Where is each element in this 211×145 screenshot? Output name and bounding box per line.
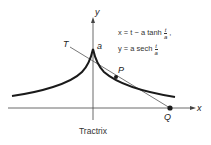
tractrix-diagram — [0, 0, 211, 145]
tractrix-curve — [12, 49, 175, 97]
equation-y-lhs: y = a sech — [118, 44, 152, 53]
x-axis-arrow-icon — [190, 106, 196, 110]
equation-y: y = a sech t a — [118, 43, 158, 56]
fraction-t-over-a: t a — [155, 43, 158, 56]
point-q — [167, 105, 172, 110]
figure-caption: Tractrix — [62, 126, 124, 136]
tangent-line — [70, 47, 170, 108]
y-axis-arrow-icon — [91, 17, 95, 23]
x-axis-label: x — [197, 104, 202, 113]
y-axis-label: y — [95, 8, 100, 17]
label-p: P — [118, 66, 124, 75]
equation-x-lhs: x = t − a tanh — [118, 28, 162, 37]
point-p — [114, 75, 118, 79]
label-t: T — [63, 40, 69, 49]
equation-x: x = t − a tanh t a , — [118, 27, 171, 40]
label-q: Q — [164, 113, 171, 122]
fraction-t-over-a: t a — [164, 27, 167, 40]
label-a: a — [97, 42, 102, 51]
